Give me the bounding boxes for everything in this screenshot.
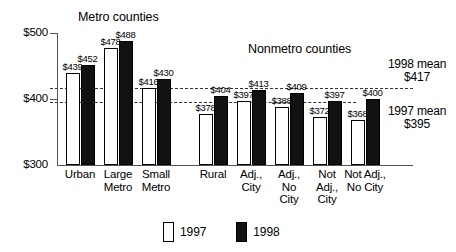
bar-rural-1997[interactable]: [199, 114, 213, 165]
x-axis-label-not-adj-no-city: Not Adj.,No City: [331, 168, 399, 193]
bar-value-not-adj-city-1998: $397: [320, 90, 350, 100]
x-axis-label-line: Not Adj.,: [331, 168, 399, 181]
bar-adj-city-1998[interactable]: [252, 90, 266, 165]
y-axis-tick-label: $500: [0, 27, 48, 38]
bar-rural-1998[interactable]: [214, 96, 228, 165]
y-axis-tick: [50, 33, 57, 34]
bar-chart: Metro counties Nonmetro counties $500$40…: [0, 0, 456, 252]
bar-value-not-adj-no-city-1998: $400: [358, 88, 388, 98]
bar-adj-city-1997[interactable]: [237, 101, 251, 165]
y-axis-tick-label: $400: [0, 93, 48, 104]
bar-small-metro-1998[interactable]: [157, 79, 171, 165]
bar-large-metro-1997[interactable]: [104, 48, 118, 165]
bar-urban-1997[interactable]: [66, 73, 80, 165]
bar-value-large-metro-1998: $488: [111, 30, 141, 40]
mean-1998-value: $417: [378, 71, 456, 85]
x-axis-label-line: Metro: [122, 181, 190, 194]
legend-swatch-1998-icon: [236, 222, 247, 242]
legend-item-1998[interactable]: 1998: [236, 222, 279, 242]
legend-swatch-1997-icon: [163, 222, 174, 242]
legend-label-1997: 1997: [180, 226, 206, 238]
bar-small-metro-1997[interactable]: [142, 88, 156, 165]
bar-urban-1998[interactable]: [81, 65, 95, 165]
bar-value-adj-no-city-1998: $409: [282, 82, 312, 92]
mean-1997-value: $395: [378, 118, 456, 132]
bar-value-small-metro-1998: $430: [149, 68, 179, 78]
y-axis-tick: [50, 99, 57, 100]
y-axis-line: [57, 33, 58, 166]
bar-value-adj-city-1998: $413: [244, 79, 274, 89]
x-axis-label-line: City: [293, 193, 361, 206]
bar-adj-no-city-1997[interactable]: [275, 107, 289, 165]
bar-adj-no-city-1998[interactable]: [290, 93, 304, 165]
bar-not-adj-city-1997[interactable]: [313, 117, 327, 165]
x-axis-label-line: No City: [331, 181, 399, 194]
y-axis-tick-label: $300: [0, 159, 48, 170]
bar-large-metro-1998[interactable]: [119, 41, 133, 165]
x-axis-line: [57, 165, 413, 166]
bar-value-urban-1998: $452: [73, 54, 103, 64]
bar-not-adj-city-1998[interactable]: [328, 101, 342, 165]
legend: 1997 1998: [163, 222, 280, 242]
legend-label-1998: 1998: [253, 226, 279, 238]
legend-item-1997[interactable]: 1997: [163, 222, 206, 242]
bar-not-adj-no-city-1997[interactable]: [351, 120, 365, 165]
